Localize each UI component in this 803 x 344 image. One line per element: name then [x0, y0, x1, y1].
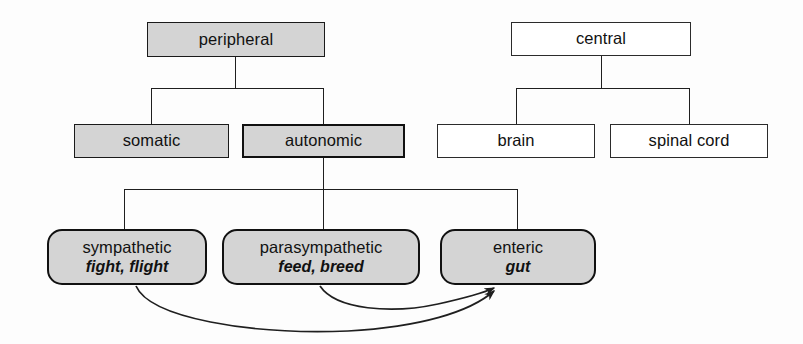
node-central-label: central — [576, 30, 626, 48]
connector-autonomic-bar — [124, 189, 518, 190]
connector-spinal-cord-drop — [689, 88, 690, 125]
connector-somatic-drop — [151, 88, 152, 125]
arrow-sympathetic-to-enteric — [136, 286, 494, 332]
node-parasympathetic-label: parasympathetic — [260, 239, 383, 257]
connector-peripheral-bar — [151, 88, 324, 89]
connector-central-stem — [601, 56, 602, 88]
node-sympathetic-label: sympathetic — [82, 239, 171, 257]
node-autonomic: autonomic — [242, 124, 405, 158]
node-central: central — [511, 22, 691, 56]
node-peripheral-label: peripheral — [199, 31, 273, 49]
connector-autonomic-drop — [323, 88, 324, 125]
node-parasympathetic: parasympathetic feed, breed — [222, 229, 420, 285]
node-somatic: somatic — [74, 124, 229, 158]
node-brain-label: brain — [497, 132, 534, 150]
node-enteric: enteric gut — [440, 229, 596, 285]
arrow-parasympathetic-to-enteric — [320, 286, 494, 309]
connector-sympathetic-drop — [124, 189, 125, 229]
node-sympathetic: sympathetic fight, flight — [47, 229, 207, 285]
node-spinal-cord-label: spinal cord — [649, 132, 730, 150]
connector-central-bar — [516, 88, 690, 89]
connector-enteric-drop — [517, 189, 518, 229]
connector-brain-drop — [516, 88, 517, 125]
node-enteric-sublabel: gut — [506, 258, 531, 275]
node-autonomic-label: autonomic — [285, 132, 362, 150]
node-parasympathetic-sublabel: feed, breed — [278, 258, 363, 275]
node-brain: brain — [437, 124, 595, 158]
node-peripheral: peripheral — [147, 22, 325, 57]
nervous-system-diagram: peripheral somatic autonomic sympathetic… — [0, 0, 803, 344]
node-somatic-label: somatic — [123, 132, 181, 150]
connector-peripheral-stem — [235, 57, 236, 88]
node-sympathetic-sublabel: fight, flight — [86, 258, 169, 275]
node-enteric-label: enteric — [493, 239, 543, 257]
connector-autonomic-stem — [323, 158, 324, 229]
node-spinal-cord: spinal cord — [610, 124, 768, 158]
